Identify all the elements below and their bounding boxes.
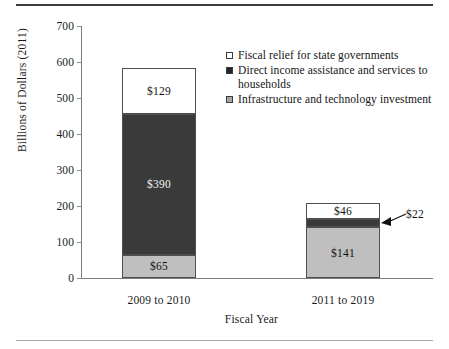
white-square-icon [226,52,233,59]
y-axis-tick-label: 500 [56,92,74,104]
bar-segment[interactable]: $390 [122,114,196,254]
bar-segment[interactable]: $65 [122,255,196,278]
bar-segment[interactable]: $141 [306,227,380,278]
callout-label-22: $22 [406,208,424,220]
bar-segment[interactable]: $129 [122,68,196,114]
filled-dark-square-icon [226,67,233,74]
y-axis-tick-label: 100 [56,236,74,248]
x-axis-title: Fiscal Year [0,313,449,325]
x-axis-title-text: Fiscal Year [225,313,278,325]
y-axis-tick-mark [77,26,82,27]
y-axis-tick-label: 0 [68,272,74,284]
legend-item-label: Fiscal relief for state governments [238,48,399,62]
bar-value-label: $46 [334,205,352,217]
x-axis-category-label: 2009 to 2010 [127,294,190,306]
y-axis-tick-mark [77,98,82,99]
legend-item[interactable]: Direct income assistance and services to… [226,63,444,91]
y-axis-tick-mark [77,170,82,171]
y-axis-tick-label: 200 [56,200,74,212]
bar-segment[interactable]: $46 [306,203,380,220]
legend-item[interactable]: Infrastructure and technology investment [226,92,444,106]
bar-group[interactable]: $65$390$1292009 to 2010 [122,26,196,278]
legend-item-label: Direct income assistance and services to… [238,63,444,91]
y-axis-tick-label: 700 [56,20,74,32]
legend-item[interactable]: Fiscal relief for state governments [226,48,444,62]
y-axis-tick-mark [77,242,82,243]
y-axis-tick-label: 600 [56,56,74,68]
y-axis-tick-label: 400 [56,128,74,140]
bar-segment[interactable]: $22 [306,219,380,227]
y-axis-line [81,26,82,278]
bar-value-label: $141 [331,247,355,259]
bar-value-label: $390 [147,178,171,190]
y-axis-title: Billions of Dollars (2011) [16,28,28,152]
figure-container: Billions of Dollars (2011) 0100200300400… [0,0,449,349]
y-axis-tick-mark [77,278,82,279]
x-axis-category-label: 2011 to 2019 [312,294,375,306]
bar-value-label: $65 [150,260,168,272]
bar-value-label: $129 [147,85,171,97]
legend-item-label: Infrastructure and technology investment [238,92,431,106]
gray-square-icon [226,96,233,103]
x-axis-line [81,278,433,279]
top-divider-rule [16,4,433,6]
y-axis-tick-mark [77,134,82,135]
y-axis-tick-mark [77,206,82,207]
bottom-divider-rule [16,340,433,341]
y-axis-tick-mark [77,62,82,63]
chart-legend: Fiscal relief for state governmentsDirec… [226,48,444,107]
y-axis-tick-label: 300 [56,164,74,176]
